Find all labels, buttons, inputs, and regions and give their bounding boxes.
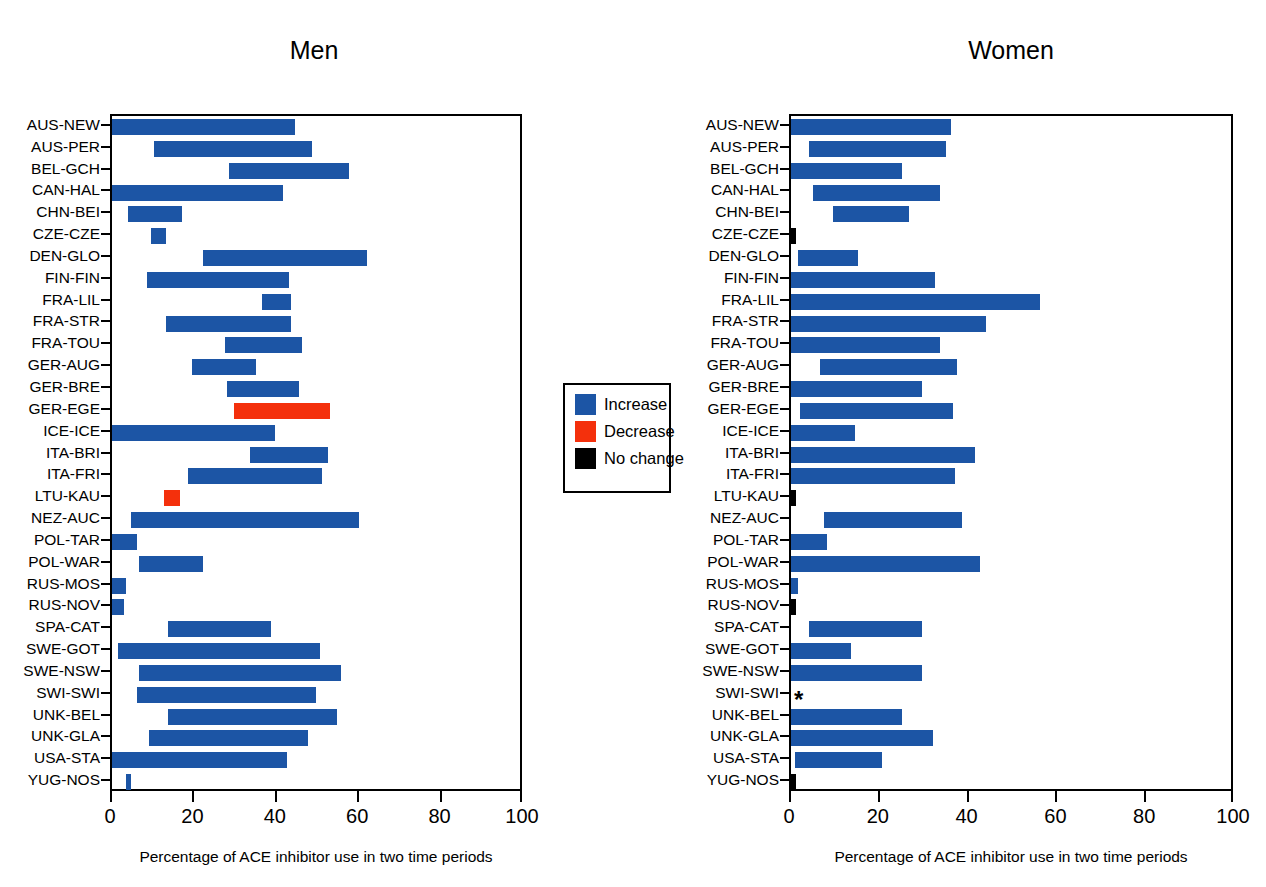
x-tick [878,791,880,802]
bar-rus-nov[interactable] [791,599,796,615]
y-label-ice-ice: ICE-ICE [722,423,779,438]
y-tick [780,320,789,322]
bar-ltu-kau[interactable] [164,490,180,506]
bar-swe-nsw[interactable] [139,665,341,681]
bar-ger-aug[interactable] [820,359,958,375]
bar-ita-fri[interactable] [188,468,322,484]
bar-fra-str[interactable] [166,316,292,332]
y-label-swi-swi: SWI-SWI [715,685,779,700]
bar-nez-auc[interactable] [131,512,360,528]
bar-swe-nsw[interactable] [791,665,922,681]
bar-yug-nos[interactable] [126,774,130,790]
bar-chn-bei[interactable] [128,206,182,222]
y-label-rus-mos: RUS-MOS [706,576,779,591]
bar-fra-tou[interactable] [225,337,301,353]
bar-swe-got[interactable] [118,643,320,659]
bar-row [112,269,520,291]
legend-item-increase: Increase [575,394,661,415]
bar-den-glo[interactable] [798,250,858,266]
bar-can-hal[interactable] [112,185,283,201]
bar-ice-ice[interactable] [791,425,855,441]
bar-bel-gch[interactable] [791,163,902,179]
bar-ita-bri[interactable] [791,447,975,463]
bar-ger-aug[interactable] [192,359,256,375]
bar-row [112,618,520,640]
bar-usa-sta[interactable] [112,752,287,768]
plot-area-men [110,114,522,791]
bar-chn-bei[interactable] [833,206,908,222]
bar-rus-mos[interactable] [791,578,798,594]
bar-spa-cat[interactable] [168,621,271,637]
y-label-swe-got: SWE-GOT [705,641,779,656]
y-label-cze-cze: CZE-CZE [33,226,100,241]
bar-aus-per[interactable] [809,141,947,157]
bar-ita-fri[interactable] [791,468,955,484]
bar-cze-cze[interactable] [151,228,165,244]
y-label-usa-sta: USA-STA [713,750,779,765]
bar-fin-fin[interactable] [147,272,289,288]
bar-spa-cat[interactable] [809,621,922,637]
bar-aus-new[interactable] [112,119,295,135]
bar-unk-bel[interactable] [168,709,337,725]
bar-ice-ice[interactable] [112,425,275,441]
bar-den-glo[interactable] [203,250,368,266]
bar-usa-sta[interactable] [795,752,882,768]
bar-pol-tar[interactable] [791,534,827,550]
bar-row [791,116,1231,138]
bar-row [112,749,520,771]
y-tick [101,364,110,366]
bar-nez-auc[interactable] [824,512,962,528]
x-tick [440,791,442,802]
y-label-fra-tou: FRA-TOU [710,335,779,350]
bar-bel-gch[interactable] [229,163,348,179]
bar-unk-gla[interactable] [149,730,308,746]
y-tick [780,473,789,475]
bar-ger-ege[interactable] [800,403,953,419]
x-tick [192,791,194,802]
bar-unk-gla[interactable] [791,730,933,746]
x-tick [357,791,359,802]
bar-rus-nov[interactable] [112,599,124,615]
y-label-swe-got: SWE-GOT [26,641,100,656]
bar-can-hal[interactable] [813,185,940,201]
x-axis-title-men: Percentage of ACE inhibitor use in two t… [110,848,522,866]
bar-fin-fin[interactable] [791,272,935,288]
bar-row [112,487,520,509]
bar-row [791,662,1231,684]
bar-ltu-kau[interactable] [791,490,796,506]
bar-fra-str[interactable] [791,316,986,332]
y-label-yug-nos: YUG-NOS [707,772,779,787]
legend-swatch-nochange-icon [575,448,596,469]
bar-aus-new[interactable] [791,119,951,135]
y-tick [101,408,110,410]
bar-swe-got[interactable] [791,643,851,659]
bar-ger-bre[interactable] [227,381,299,397]
y-tick [780,299,789,301]
bar-fra-lil[interactable] [262,294,291,310]
bar-swi-swi[interactable] [137,687,316,703]
bar-row [112,160,520,182]
x-tick [1055,791,1057,802]
bar-pol-war[interactable] [791,556,980,572]
y-label-ger-ege: GER-EGE [708,401,779,416]
bar-yug-nos[interactable] [791,774,796,790]
y-tick [101,735,110,737]
bar-pol-tar[interactable] [112,534,137,550]
bar-unk-bel[interactable] [791,709,902,725]
x-tick-label: 40 [955,805,977,828]
bar-row [791,618,1231,640]
y-tick [780,168,789,170]
bar-fra-lil[interactable] [791,294,1040,310]
bar-fra-tou[interactable] [791,337,940,353]
bar-row [791,771,1231,793]
bar-rus-mos[interactable] [112,578,126,594]
x-tick [967,791,969,802]
bar-ger-ege[interactable] [234,403,331,419]
bar-ger-bre[interactable] [791,381,922,397]
bar-row [791,313,1231,335]
bar-aus-per[interactable] [154,141,311,157]
bar-pol-war[interactable] [139,556,203,572]
bar-cze-cze[interactable] [791,228,796,244]
bar-ita-bri[interactable] [250,447,328,463]
bar-row [791,160,1231,182]
